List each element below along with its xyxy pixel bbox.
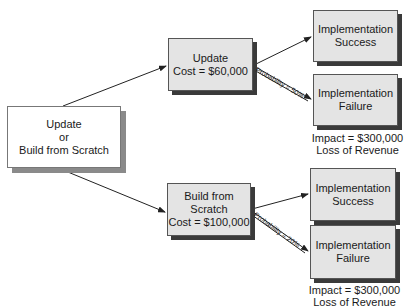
update-cost: Cost = $60,000 <box>173 65 248 78</box>
build-failure-box: Implementation Failure <box>310 225 396 279</box>
build-success-line-2: Success <box>332 195 374 208</box>
update-option-box: Update Cost = $60,000 <box>168 38 253 91</box>
root-line-3: Build from Scratch <box>19 144 109 157</box>
build-impact-desc: Loss of Revenue <box>302 296 406 307</box>
build-impact-note: Impact = $300,000 Loss of Revenue <box>302 284 406 307</box>
build-success-line-1: Implementation <box>315 182 390 195</box>
update-impact-note: Impact = $300,000 Loss of Revenue <box>305 132 406 156</box>
update-success-line-2: Success <box>335 36 377 49</box>
update-failure-box: Implementation Failure <box>313 74 398 126</box>
build-failure-line-1: Implementation <box>315 239 390 252</box>
root-line-1: Update <box>46 118 81 131</box>
root-line-2: or <box>59 131 69 144</box>
build-cost: Cost = $100,000 <box>168 216 249 229</box>
build-title: Build from Scratch <box>168 190 250 216</box>
build-option-box: Build from Scratch Cost = $100,000 <box>167 183 251 236</box>
build-failure-line-2: Failure <box>336 252 370 265</box>
update-title: Update <box>193 52 228 65</box>
update-success-line-1: Implementation <box>318 23 393 36</box>
build-impact-amount: Impact = $300,000 <box>302 284 406 296</box>
update-impact-amount: Impact = $300,000 <box>305 132 406 144</box>
root-decision-box: Update or Build from Scratch <box>7 106 121 168</box>
update-success-box: Implementation Success <box>313 10 398 62</box>
update-failure-line-2: Failure <box>339 100 373 113</box>
update-impact-desc: Loss of Revenue <box>305 144 406 156</box>
build-success-box: Implementation Success <box>310 168 396 221</box>
update-failure-line-1: Implementation <box>318 87 393 100</box>
